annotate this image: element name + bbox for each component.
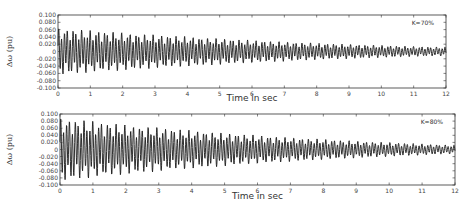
y-tick-label: 0.040	[41, 131, 58, 138]
x-tick-label: 12	[442, 90, 450, 97]
x-tick-label: 3	[157, 187, 161, 194]
x-tick-label: 9	[354, 187, 358, 194]
y-tick-label: -0.100	[37, 84, 57, 91]
x-tick-label: 12	[451, 187, 459, 194]
y-tick-label: 0.100	[39, 11, 56, 18]
x-tick-label: 11	[410, 90, 418, 97]
signal-trace	[58, 29, 446, 74]
y-tick-label: -0.060	[39, 167, 59, 174]
y-tick-label: -0.020	[37, 55, 57, 62]
x-tick-label: 4	[190, 187, 194, 194]
x-tick-label: 5	[218, 90, 222, 97]
chart-k70: 0.1000.0800.0600.0400.0200-0.020-0.040-0…	[0, 0, 470, 104]
x-tick-label: 7	[282, 90, 286, 97]
x-tick-label: 10	[385, 187, 393, 194]
chart-k80: 0.1000.0800.0600.0400.0200-0.020-0.040-0…	[0, 104, 470, 209]
y-tick-label: -0.080	[39, 174, 59, 181]
y-tick-label: -0.020	[39, 153, 59, 160]
gain-annotation: K=70%	[412, 19, 435, 26]
x-tick-label: 4	[185, 90, 189, 97]
y-axis-label: Δω (pu)	[5, 134, 14, 165]
y-tick-label: 0	[54, 146, 58, 153]
y-tick-label: -0.100	[39, 181, 59, 188]
y-tick-label: 0.020	[41, 138, 58, 145]
y-tick-label: -0.040	[37, 62, 57, 69]
x-tick-label: 5	[223, 187, 227, 194]
y-tick-label: -0.040	[39, 160, 59, 167]
x-tick-label: 3	[153, 90, 157, 97]
y-tick-label: -0.080	[37, 77, 57, 84]
x-tick-label: 2	[121, 90, 125, 97]
x-tick-label: 8	[315, 90, 319, 97]
y-tick-label: 0.080	[41, 117, 58, 124]
y-tick-label: 0.060	[41, 124, 58, 131]
x-tick-label: 0	[56, 90, 60, 97]
y-tick-label: 0.040	[39, 33, 56, 40]
x-tick-label: 10	[378, 90, 386, 97]
chart-k70-plot: 0.1000.0800.0600.0400.0200-0.020-0.040-0…	[0, 0, 470, 104]
chart-k80-plot: 0.1000.0800.0600.0400.0200-0.020-0.040-0…	[0, 104, 470, 209]
x-axis-label: Time in sec	[231, 191, 283, 201]
y-tick-label: -0.060	[37, 69, 57, 76]
y-axis-label: Δω (pu)	[5, 36, 14, 67]
x-tick-label: 2	[124, 187, 128, 194]
gain-annotation: K=80%	[421, 118, 444, 125]
y-tick-label: 0.020	[39, 40, 56, 47]
x-tick-label: 0	[58, 187, 62, 194]
x-tick-label: 8	[321, 187, 325, 194]
x-tick-label: 1	[88, 90, 92, 97]
y-tick-label: 0.100	[41, 110, 58, 117]
y-tick-label: 0.080	[39, 18, 56, 25]
x-tick-label: 7	[289, 187, 293, 194]
y-tick-label: 0	[52, 48, 56, 55]
x-tick-label: 1	[91, 187, 95, 194]
x-tick-label: 11	[418, 187, 426, 194]
y-tick-label: 0.060	[39, 26, 56, 33]
x-tick-label: 9	[347, 90, 351, 97]
x-axis-label: Time in sec	[225, 93, 277, 103]
signal-trace	[60, 119, 455, 180]
